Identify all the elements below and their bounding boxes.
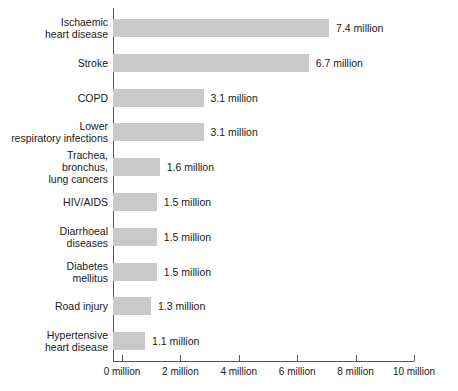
x-axis-tick-label: 6 million bbox=[279, 366, 316, 378]
bar bbox=[113, 158, 160, 176]
bar-row: Trachea, bronchus, lung cancers1.6 milli… bbox=[0, 158, 458, 176]
category-label: COPD bbox=[0, 92, 108, 104]
bar bbox=[113, 228, 157, 246]
category-label: HIV/AIDS bbox=[0, 196, 108, 208]
bar-row: HIV/AIDS1.5 million bbox=[0, 193, 458, 211]
value-axis-line bbox=[113, 361, 414, 362]
bar-value-label: 1.5 million bbox=[164, 263, 211, 281]
x-axis-tick-label: 10 million bbox=[393, 366, 435, 378]
bar-row: Diabetes mellitus1.5 million bbox=[0, 263, 458, 281]
category-label: Trachea, bronchus, lung cancers bbox=[0, 149, 108, 185]
bar bbox=[113, 263, 157, 281]
bar-value-label: 3.1 million bbox=[211, 89, 258, 107]
bar-chart: Ischaemic heart disease7.4 millionStroke… bbox=[0, 0, 458, 391]
bar bbox=[113, 123, 204, 141]
bar-row: Hypertensive heart disease1.1 million bbox=[0, 332, 458, 350]
bar-value-label: 1.5 million bbox=[164, 193, 211, 211]
plot-area: Ischaemic heart disease7.4 millionStroke… bbox=[0, 0, 458, 391]
bar bbox=[113, 89, 204, 107]
bar-value-label: 7.4 million bbox=[336, 19, 383, 37]
bar-row: Stroke6.7 million bbox=[0, 54, 458, 72]
category-label: Diabetes mellitus bbox=[0, 260, 108, 284]
category-label: Hypertensive heart disease bbox=[0, 329, 108, 353]
category-label: Diarrhoeal diseases bbox=[0, 225, 108, 249]
bar bbox=[113, 19, 329, 37]
bar-value-label: 1.1 million bbox=[152, 332, 199, 350]
bar bbox=[113, 193, 157, 211]
bar-value-label: 6.7 million bbox=[316, 54, 363, 72]
x-axis-tick bbox=[180, 355, 181, 361]
bar-value-label: 1.5 million bbox=[164, 228, 211, 246]
x-axis-tick-label: 4 million bbox=[220, 366, 257, 378]
x-axis-tick bbox=[297, 355, 298, 361]
bar-value-label: 3.1 million bbox=[211, 123, 258, 141]
bar-row: Diarrhoeal diseases1.5 million bbox=[0, 228, 458, 246]
category-label: Lower respiratory infections bbox=[0, 120, 108, 144]
bar-row: Ischaemic heart disease7.4 million bbox=[0, 19, 458, 37]
bar-row: Lower respiratory infections3.1 million bbox=[0, 123, 458, 141]
x-axis-tick-label: 8 million bbox=[337, 366, 374, 378]
bar bbox=[113, 332, 145, 350]
x-axis-tick bbox=[239, 355, 240, 361]
x-axis-tick bbox=[356, 355, 357, 361]
x-axis-tick-label: 0 million bbox=[104, 366, 141, 378]
category-label: Stroke bbox=[0, 57, 108, 69]
x-axis-tick bbox=[414, 355, 415, 361]
bar-row: COPD3.1 million bbox=[0, 89, 458, 107]
x-axis-tick-label: 2 million bbox=[162, 366, 199, 378]
category-label: Road injury bbox=[0, 300, 108, 312]
bar bbox=[113, 297, 151, 315]
bar-value-label: 1.6 million bbox=[167, 158, 214, 176]
x-axis-tick bbox=[122, 355, 123, 361]
bar bbox=[113, 54, 309, 72]
category-label: Ischaemic heart disease bbox=[0, 16, 108, 40]
bar-value-label: 1.3 million bbox=[158, 297, 205, 315]
bar-row: Road injury1.3 million bbox=[0, 297, 458, 315]
